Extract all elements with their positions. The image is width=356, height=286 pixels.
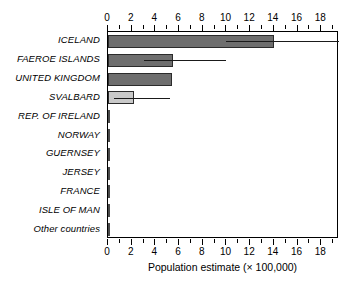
axis-tick-minor [190, 239, 191, 243]
axis-tick-label: 0 [97, 12, 117, 23]
bar-row [108, 54, 337, 67]
axis-tick-label: 4 [144, 12, 164, 23]
category-label: REP. OF IRELAND [0, 111, 100, 121]
axis-tick-minor [261, 25, 262, 29]
axis-tick-label: 14 [263, 12, 283, 23]
axis-tick-minor [190, 25, 191, 29]
axis-tick-label: 16 [287, 12, 307, 23]
axis-tick-label: 10 [215, 246, 235, 257]
bar [108, 73, 172, 86]
axis-tick-minor [332, 25, 333, 29]
axis-tick-minor [214, 239, 215, 243]
bar-chart-figure: 024681012141618 ICELANDFAEROE ISLANDSUNI… [0, 0, 356, 286]
axis-tick-major [320, 239, 321, 245]
category-label: Other countries [0, 224, 100, 234]
bar [108, 148, 110, 161]
category-label: FAEROE ISLANDS [0, 54, 100, 64]
error-bar [226, 41, 339, 42]
axis-tick-major [178, 239, 179, 245]
axis-tick-minor [332, 239, 333, 243]
axis-tick-label: 8 [192, 246, 212, 257]
axis-tick-label: 2 [121, 12, 141, 23]
axis-tick-major [225, 239, 226, 245]
axis-tick-minor [214, 25, 215, 29]
axis-tick-label: 6 [168, 246, 188, 257]
axis-tick-label: 18 [310, 246, 330, 257]
axis-tick-minor [143, 239, 144, 243]
category-label: ISLE OF MAN [0, 205, 100, 215]
axis-tick-label: 4 [144, 246, 164, 257]
axis-tick-label: 8 [192, 12, 212, 23]
category-label: GUERNSEY [0, 148, 100, 158]
axis-tick-label: 12 [239, 246, 259, 257]
category-label: SVALBARD [0, 92, 100, 102]
bar [108, 204, 110, 217]
axis-tick-minor [143, 25, 144, 29]
bar-row [108, 35, 337, 48]
bar-row [108, 91, 337, 104]
category-label: ICELAND [0, 35, 100, 45]
axis-tick-major [297, 239, 298, 245]
axis-tick-label: 2 [121, 246, 141, 257]
bar [108, 110, 110, 123]
bar-row [108, 223, 337, 236]
x-axis-title: Population estimate (× 100,000) [107, 261, 338, 273]
axis-tick-label: 14 [263, 246, 283, 257]
axis-tick-minor [166, 239, 167, 243]
error-bar [114, 98, 170, 99]
axis-tick-label: 16 [287, 246, 307, 257]
axis-tick-major [273, 239, 274, 245]
axis-tick-minor [166, 25, 167, 29]
category-label: UNITED KINGDOM [0, 73, 100, 83]
axis-tick-major [107, 239, 108, 245]
axis-tick-label: 0 [97, 246, 117, 257]
x-axis-top-tick-labels: 024681012141618 [107, 12, 338, 24]
axis-tick-minor [308, 25, 309, 29]
axis-tick-minor [285, 25, 286, 29]
axis-tick-minor [237, 25, 238, 29]
axis-tick-minor [285, 239, 286, 243]
axis-tick-minor [119, 239, 120, 243]
error-bar [144, 60, 227, 61]
axis-tick-label: 10 [215, 12, 235, 23]
axis-tick-minor [119, 25, 120, 29]
axis-tick-major [249, 239, 250, 245]
x-axis-bottom-tick-labels: 024681012141618 [107, 246, 338, 258]
bar-row [108, 185, 337, 198]
bar [108, 167, 110, 180]
category-label-column: ICELANDFAEROE ISLANDSUNITED KINGDOMSVALB… [0, 31, 104, 238]
axis-tick-major [202, 239, 203, 245]
axis-tick-minor [308, 239, 309, 243]
bars-layer [108, 32, 337, 237]
axis-tick-major [131, 239, 132, 245]
bar-row [108, 110, 337, 123]
category-label: JERSEY [0, 167, 100, 177]
plot-area [107, 31, 338, 238]
axis-tick-label: 12 [239, 12, 259, 23]
axis-tick-major [154, 239, 155, 245]
category-label: NORWAY [0, 130, 100, 140]
bar [108, 223, 110, 236]
axis-tick-label: 18 [310, 12, 330, 23]
bar-row [108, 167, 337, 180]
bar-row [108, 129, 337, 142]
bar [108, 185, 110, 198]
bar-row [108, 204, 337, 217]
axis-tick-label: 6 [168, 12, 188, 23]
category-label: FRANCE [0, 186, 100, 196]
axis-tick-minor [237, 239, 238, 243]
axis-tick-minor [261, 239, 262, 243]
bar [108, 129, 110, 142]
bar-row [108, 148, 337, 161]
bar-row [108, 73, 337, 86]
x-axis-bottom-ticks [107, 239, 338, 245]
